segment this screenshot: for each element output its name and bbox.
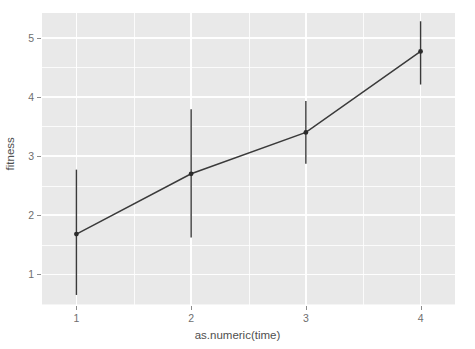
data-point	[74, 232, 79, 237]
x-tick-label: 1	[64, 313, 88, 324]
y-tick-label: 5	[13, 33, 34, 44]
x-tick-mark	[76, 306, 77, 310]
x-tick-label: 4	[409, 313, 433, 324]
y-tick-mark	[37, 97, 41, 98]
x-tick-mark	[306, 306, 307, 310]
y-tick-label: 1	[13, 269, 34, 280]
y-tick-mark	[37, 38, 41, 39]
error-bars	[76, 21, 420, 295]
x-tick-label: 3	[294, 313, 318, 324]
x-axis-title: as.numeric(time)	[0, 330, 475, 342]
x-tick-label: 2	[179, 313, 203, 324]
plot-panel	[42, 13, 455, 305]
x-tick-mark	[421, 306, 422, 310]
data-layer	[42, 13, 455, 305]
x-tick-mark	[191, 306, 192, 310]
y-tick-mark	[37, 156, 41, 157]
series-line-fitness	[76, 51, 420, 234]
y-tick-mark	[37, 215, 41, 216]
data-point	[418, 49, 423, 54]
data-point	[303, 130, 308, 135]
chart-container: 12345 1234 as.numeric(time) fitness	[0, 0, 475, 349]
y-tick-label: 4	[13, 92, 34, 103]
y-axis-title: fitness	[5, 119, 17, 189]
data-point	[189, 171, 194, 176]
y-tick-label: 2	[13, 210, 34, 221]
y-tick-mark	[37, 274, 41, 275]
